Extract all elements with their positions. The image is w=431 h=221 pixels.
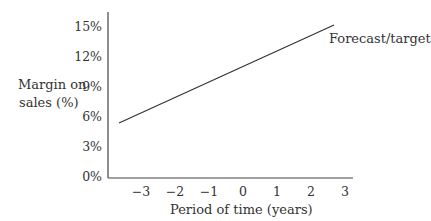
x-tick-neg2: −2: [160, 184, 190, 199]
y-axis-label-line2: sales (%): [19, 95, 79, 110]
y-tick-0: 0%: [62, 169, 102, 184]
x-tick-3: 3: [330, 184, 360, 199]
x-axis-label: Period of time (years): [170, 202, 313, 217]
y-tick-15: 15%: [62, 19, 102, 34]
x-tick-1: 1: [262, 184, 292, 199]
x-tick-0: 0: [228, 184, 258, 199]
x-tick-neg1: −1: [194, 184, 224, 199]
y-axis-label-line1: Margin on: [18, 77, 86, 92]
forecast-line: [119, 25, 334, 123]
y-tick-12: 12%: [62, 49, 102, 64]
y-tick-3: 3%: [62, 139, 102, 154]
y-tick-6: 6%: [62, 109, 102, 124]
forecast-annotation: Forecast/target: [329, 31, 431, 46]
x-tick-2: 2: [296, 184, 326, 199]
x-tick-neg3: −3: [126, 184, 156, 199]
